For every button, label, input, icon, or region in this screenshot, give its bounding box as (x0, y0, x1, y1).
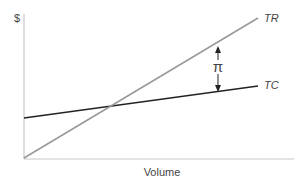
break-even-chart: π $ TR TC Volume (0, 0, 308, 182)
profit-label: π (213, 58, 223, 75)
tc-label: TC (264, 79, 279, 91)
x-axis-label: Volume (144, 166, 181, 178)
tr-label: TR (264, 12, 279, 24)
tc-line (24, 86, 258, 118)
tr-line (24, 18, 258, 158)
y-axis-label: $ (14, 12, 20, 24)
